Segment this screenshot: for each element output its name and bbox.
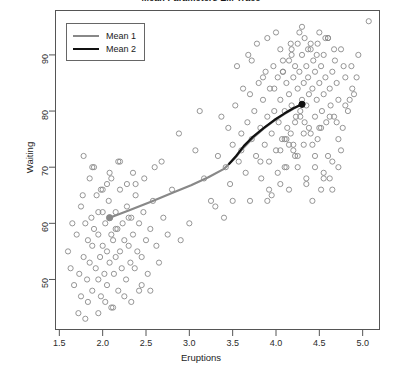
scatter-points <box>65 19 371 322</box>
x-tick-label: 2.0 <box>88 338 118 348</box>
chart-legend: Mean 1Mean 2 <box>66 23 145 61</box>
x-tick-label: 3.5 <box>218 338 248 348</box>
mean-trace-lines <box>107 101 306 221</box>
legend-item-1: Mean 1 <box>73 29 136 42</box>
y-tick-label: 70 <box>40 166 50 186</box>
legend-label: Mean 1 <box>106 31 136 41</box>
y-tick-label: 60 <box>40 222 50 242</box>
y-tick-label: 90 <box>40 54 50 74</box>
legend-line-swatch <box>73 48 99 50</box>
legend-item-2: Mean 2 <box>73 42 136 55</box>
legend-label: Mean 2 <box>106 44 136 54</box>
x-axis-label: Eruptions <box>0 352 402 363</box>
legend-line-swatch <box>73 35 99 37</box>
chart-root: Mean Parameters EM Trace 5060708090 1.52… <box>0 0 402 382</box>
x-tick-label: 4.5 <box>304 338 334 348</box>
x-tick-label: 1.5 <box>44 338 74 348</box>
x-tick-label: 5.0 <box>348 338 378 348</box>
y-tick-label: 50 <box>40 278 50 298</box>
y-axis-label: Waiting <box>24 142 35 173</box>
x-tick-label: 2.5 <box>131 338 161 348</box>
y-tick-label: 80 <box>40 110 50 130</box>
x-tick-label: 3.0 <box>174 338 204 348</box>
x-tick-label: 4.0 <box>261 338 291 348</box>
chart-canvas <box>0 0 402 382</box>
